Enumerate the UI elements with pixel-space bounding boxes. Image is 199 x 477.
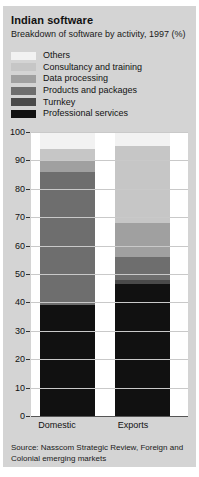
- y-axis-tick-mark: [26, 359, 30, 360]
- gridline: [31, 246, 188, 247]
- y-axis-tick-mark: [26, 217, 30, 218]
- gridline: [31, 359, 188, 360]
- legend-swatch-icon: [11, 52, 36, 60]
- y-axis-tick-label: 40: [15, 297, 25, 307]
- bar-segment: [40, 172, 95, 305]
- gridline: [31, 274, 188, 275]
- y-axis-tick-mark: [26, 416, 30, 417]
- legend-item[interactable]: Products and packages: [11, 85, 191, 97]
- x-label-exports: Exports: [93, 420, 173, 430]
- y-axis-tick-label: 90: [15, 155, 25, 165]
- y-axis-tick-mark: [26, 132, 30, 133]
- y-axis-tick-mark: [26, 189, 30, 190]
- y-axis-tick-label: 70: [15, 212, 25, 222]
- gridline: [31, 217, 188, 218]
- bar-segment: [40, 160, 95, 171]
- bar-segment: [115, 132, 170, 146]
- plot-area: [31, 132, 188, 416]
- y-axis-tick-label: 20: [15, 354, 25, 364]
- y-axis-tick-label: 80: [15, 184, 25, 194]
- y-axis-tick-mark: [26, 302, 30, 303]
- y-axis-tick-mark: [26, 160, 30, 161]
- bar-segment: [115, 257, 170, 280]
- bar-segment: [115, 284, 170, 416]
- y-axis-tick-label: 60: [15, 241, 25, 251]
- chart-legend: OthersConsultancy and trainingData proce…: [11, 50, 191, 120]
- gridline: [31, 132, 188, 133]
- y-axis: 1009080706050403020100: [3, 132, 31, 422]
- legend-item[interactable]: Data processing: [11, 73, 191, 85]
- chart-subtitle: Breakdown of software by activity, 1997 …: [11, 29, 185, 39]
- y-axis-tick-mark: [26, 274, 30, 275]
- y-axis-tick-mark: [26, 246, 30, 247]
- legend-item-label: Professional services: [43, 109, 128, 118]
- bar-segment: [115, 223, 170, 257]
- legend-swatch-icon: [11, 75, 36, 83]
- page-title: Indian software: [11, 14, 93, 26]
- bar-segment: [115, 146, 170, 223]
- legend-item-label: Others: [43, 51, 70, 60]
- gridline: [31, 416, 188, 417]
- bar-segment: [40, 305, 95, 416]
- y-axis-tick-label: 50: [15, 269, 25, 279]
- x-label-domestic: Domestic: [17, 420, 97, 430]
- y-axis-tick-mark: [26, 388, 30, 389]
- gridline: [31, 302, 188, 303]
- legend-item-label: Products and packages: [43, 86, 137, 95]
- chart-card: Indian software Breakdown of software by…: [3, 6, 196, 467]
- y-axis-tick-label: 30: [15, 326, 25, 336]
- legend-item[interactable]: Others: [11, 50, 191, 62]
- legend-item[interactable]: Turnkey: [11, 96, 191, 108]
- gridline: [31, 388, 188, 389]
- legend-swatch-icon: [11, 63, 36, 71]
- gridline: [31, 160, 188, 161]
- legend-item-label: Turnkey: [43, 98, 75, 107]
- y-axis-tick-mark: [26, 331, 30, 332]
- legend-swatch-icon: [11, 98, 36, 106]
- legend-item-label: Data processing: [43, 74, 108, 83]
- gridline: [31, 331, 188, 332]
- y-axis-tick-label: 100: [10, 127, 25, 137]
- y-axis-tick-label: 10: [15, 383, 25, 393]
- bar-segment: [40, 132, 95, 149]
- legend-item-label: Consultancy and training: [43, 63, 142, 72]
- legend-swatch-icon: [11, 110, 36, 118]
- legend-swatch-icon: [11, 87, 36, 95]
- legend-item[interactable]: Consultancy and training: [11, 62, 191, 74]
- bar-segment: [40, 149, 95, 160]
- gridline: [31, 189, 188, 190]
- source-note: Source: Nasscom Strategic Review, Foreig…: [11, 442, 191, 464]
- legend-item[interactable]: Professional services: [11, 108, 191, 120]
